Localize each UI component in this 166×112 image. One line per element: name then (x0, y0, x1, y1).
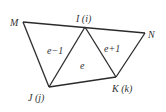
vertex-label-i: I (i) (75, 13, 92, 25)
edge-m-j (23, 22, 49, 87)
element-label-e-plus-1: e+1 (104, 43, 120, 54)
edge-n-k (116, 33, 145, 77)
element-label-e: e (80, 60, 85, 71)
vertex-label-n: N (147, 29, 156, 40)
vertex-label-j: J (j) (28, 92, 45, 104)
vertex-label-m: M (9, 17, 19, 28)
element-label-e-minus-1: e−1 (47, 45, 63, 56)
mesh-diagram: M I (i) N J (j) K (k) e−1 e e+1 (0, 0, 166, 112)
edge-j-k (49, 77, 116, 87)
vertex-label-k: K (k) (111, 83, 133, 95)
edge-i-j (49, 27, 85, 87)
